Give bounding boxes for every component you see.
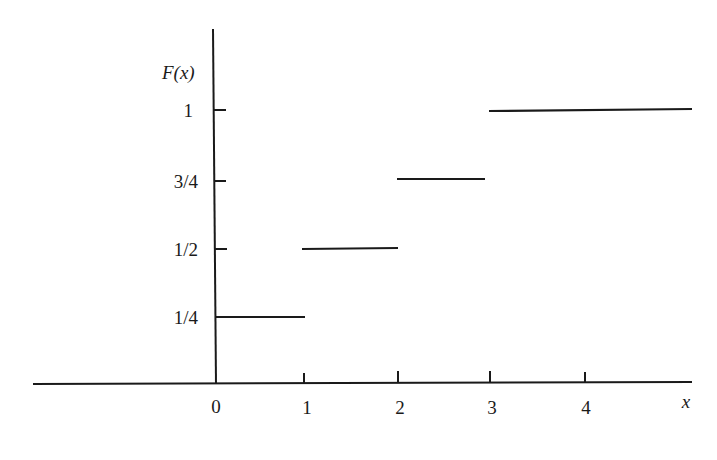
x-tick-label-2: 2 bbox=[395, 397, 405, 418]
x-axis-label: x bbox=[681, 391, 691, 412]
x-tick-label-0: 0 bbox=[211, 396, 221, 417]
x-tick-label-1: 1 bbox=[302, 397, 312, 418]
y-tick-label-1: 1 bbox=[184, 100, 194, 121]
y-axis-label: F(x) bbox=[161, 62, 195, 84]
step-segment-2 bbox=[302, 248, 398, 249]
x-tick-label-4: 4 bbox=[581, 397, 591, 418]
y-tick-label-1-4: 1/4 bbox=[174, 307, 199, 328]
y-tick-label-3-4: 3/4 bbox=[174, 171, 199, 192]
step-segment-4 bbox=[489, 109, 692, 111]
y-tick-label-1-2: 1/2 bbox=[174, 239, 198, 260]
y-axis bbox=[213, 29, 216, 384]
step-function-chart: F(x) 1 3/4 1/2 1/4 0 1 2 3 4 x bbox=[0, 0, 717, 460]
x-tick-label-3: 3 bbox=[487, 397, 497, 418]
x-axis bbox=[33, 382, 692, 384]
